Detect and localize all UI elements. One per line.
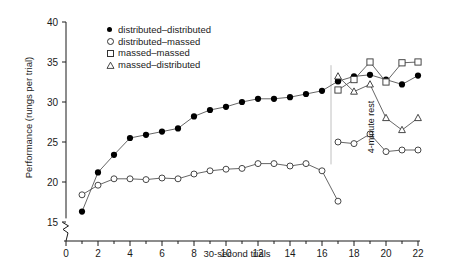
data-point bbox=[159, 175, 165, 181]
y-tick-label: 30 bbox=[47, 97, 59, 108]
series-line bbox=[338, 62, 418, 90]
data-point bbox=[95, 182, 101, 188]
data-point bbox=[223, 166, 229, 172]
data-point bbox=[399, 126, 406, 132]
data-point bbox=[95, 169, 101, 175]
y-tick-label: 25 bbox=[47, 137, 59, 148]
data-point bbox=[287, 163, 293, 169]
legend-label: massed–massed bbox=[118, 47, 190, 59]
data-series-open-triangle bbox=[335, 73, 422, 133]
data-point bbox=[143, 132, 149, 138]
y-tick-label: 20 bbox=[47, 177, 59, 188]
legend-label: distributed–distributed bbox=[118, 24, 211, 36]
data-point bbox=[415, 59, 421, 65]
legend-label: distributed–massed bbox=[118, 36, 200, 48]
data-point bbox=[239, 99, 245, 105]
series-line bbox=[82, 81, 338, 211]
x-axis-label: 30-second trials bbox=[0, 248, 474, 259]
data-point bbox=[415, 147, 421, 153]
open-square-icon bbox=[105, 47, 118, 58]
axis-break-connector bbox=[66, 233, 68, 241]
data-point bbox=[271, 161, 277, 167]
data-point bbox=[255, 96, 261, 102]
data-point bbox=[287, 94, 293, 100]
data-point bbox=[415, 114, 422, 120]
open-triangle-icon bbox=[105, 59, 118, 70]
data-series-open-square bbox=[335, 59, 421, 93]
y-axis-break-icon bbox=[63, 222, 69, 233]
data-point bbox=[79, 192, 85, 198]
y-tick-label: 35 bbox=[47, 57, 59, 68]
y-tick-label: 40 bbox=[47, 17, 59, 28]
data-point bbox=[271, 96, 277, 102]
data-point bbox=[127, 176, 133, 182]
data-point bbox=[303, 91, 309, 97]
data-point bbox=[143, 177, 149, 183]
data-point bbox=[111, 152, 117, 158]
data-point bbox=[351, 77, 357, 83]
legend-label: massed–distributed bbox=[118, 59, 200, 71]
data-point bbox=[79, 209, 85, 215]
data-point bbox=[319, 168, 325, 174]
rest-annotation-label: 4-minute rest bbox=[366, 82, 376, 172]
data-point bbox=[399, 147, 405, 153]
series-line bbox=[338, 76, 418, 130]
data-point bbox=[383, 114, 390, 120]
data-point bbox=[351, 141, 357, 147]
legend-item: distributed–distributed bbox=[105, 24, 211, 36]
data-point bbox=[399, 81, 405, 87]
data-point bbox=[335, 198, 341, 204]
series-line bbox=[338, 134, 418, 152]
data-point bbox=[207, 168, 213, 174]
data-point bbox=[207, 107, 213, 113]
chart-legend: distributed–distributed distributed–mass… bbox=[105, 24, 211, 70]
data-point bbox=[191, 113, 197, 119]
data-point bbox=[303, 161, 309, 167]
data-point bbox=[255, 161, 261, 167]
data-point bbox=[335, 87, 341, 93]
data-point bbox=[239, 165, 245, 171]
data-point bbox=[399, 60, 405, 66]
y-axis-label: Performance (rungs per trial) bbox=[23, 38, 34, 198]
data-point bbox=[367, 59, 373, 65]
data-point bbox=[175, 125, 181, 131]
data-point bbox=[367, 72, 373, 78]
data-point bbox=[335, 73, 342, 79]
data-point bbox=[111, 176, 117, 182]
legend-item: massed–distributed bbox=[105, 59, 211, 71]
data-point bbox=[383, 79, 389, 85]
data-point bbox=[319, 88, 325, 94]
data-point bbox=[383, 149, 389, 155]
chart-plot-area: 1520253035400246810121416182022 bbox=[0, 0, 474, 271]
data-point bbox=[191, 171, 197, 177]
legend-item: distributed–massed bbox=[105, 36, 211, 48]
data-point bbox=[175, 176, 181, 182]
data-point bbox=[127, 135, 133, 141]
legend-item: massed–massed bbox=[105, 47, 211, 59]
y-tick-label: 15 bbox=[47, 217, 59, 228]
chart-figure: 1520253035400246810121416182022 Performa… bbox=[0, 0, 474, 271]
data-point bbox=[159, 129, 165, 135]
data-point bbox=[335, 139, 341, 145]
filled-circle-icon bbox=[105, 24, 118, 35]
data-point bbox=[415, 73, 421, 79]
open-circle-icon bbox=[105, 36, 118, 47]
series-line bbox=[338, 75, 418, 85]
data-point bbox=[223, 104, 229, 110]
